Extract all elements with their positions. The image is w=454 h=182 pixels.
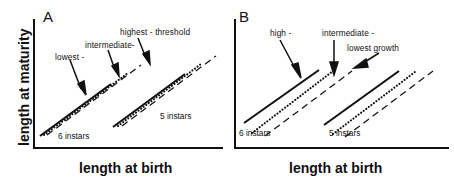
panel-a-line-highest-6 xyxy=(47,65,141,135)
panel-a-line-highest-5 xyxy=(122,56,216,126)
panel-b-line-high-5 xyxy=(324,71,399,125)
figure-panel-container: A length at maturity length at birth low… xyxy=(0,0,454,182)
panel-a-line-lowest-5 xyxy=(113,74,185,127)
panel-b-arrow-high xyxy=(280,40,301,78)
panel-b-arrow-intermediate xyxy=(330,40,338,75)
panel-b-line-lowest-5 xyxy=(345,71,433,137)
panel-a-arrow-intermediate xyxy=(108,50,119,76)
panel-b: B length at birth high - intermediate - … xyxy=(227,0,454,182)
panel-a-arrow-highest xyxy=(138,38,150,64)
panel-a: A length at maturity length at birth low… xyxy=(0,0,227,182)
panel-a-arrow-lowest xyxy=(70,60,86,95)
panel-b-line-lowest-6 xyxy=(265,71,352,136)
panel-b-arrow-lowest xyxy=(354,53,379,68)
panel-b-line-intermediate-6 xyxy=(252,71,333,133)
panel-a-plot-lines xyxy=(0,0,227,182)
panel-b-line-intermediate-5 xyxy=(333,72,415,134)
panel-b-line-high-6 xyxy=(244,70,319,123)
panel-a-line-lowest-6 xyxy=(40,84,111,136)
panel-b-plot-lines xyxy=(227,0,454,182)
